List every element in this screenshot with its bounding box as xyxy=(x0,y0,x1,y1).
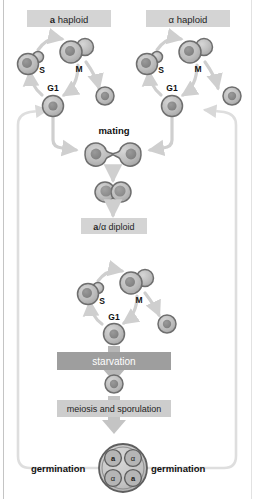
label-m-a: M xyxy=(75,64,82,74)
cell-zygote xyxy=(95,182,131,202)
spore-top-right: α xyxy=(125,450,142,467)
cell-g1-a xyxy=(43,96,64,117)
spore-bottom-right: a xyxy=(125,470,142,487)
banner-diploid-label: a/α diploid xyxy=(93,222,134,232)
banner-alpha-haploid-suffix: haploid xyxy=(174,14,207,25)
label-starvation: starvation xyxy=(92,356,135,367)
life-cycle-svg: a haploid α haploid M S xyxy=(0,0,255,499)
banner-a-haploid-suffix: haploid xyxy=(55,14,88,25)
banner-alpha-haploid-label: α haploid xyxy=(169,14,208,25)
label-m-alpha: M xyxy=(194,64,201,74)
spore-bottom-left: α xyxy=(105,470,122,487)
label-s-alpha: S xyxy=(158,65,164,75)
label-s-a: S xyxy=(39,65,45,75)
label-g1-diploid: G1 xyxy=(108,312,120,322)
label-m-diploid: M xyxy=(135,295,142,305)
yeast-life-cycle-figure: a haploid α haploid M S xyxy=(0,0,255,499)
ascus: a α α a xyxy=(99,444,147,492)
label-s-diploid: S xyxy=(99,296,105,306)
spore-top-right-label: α xyxy=(131,454,136,463)
label-germination-left: germination xyxy=(31,463,86,474)
cell-daughter-alpha xyxy=(223,87,241,105)
banner-diploid-mid: /α xyxy=(98,222,106,232)
cell-diploid-single xyxy=(105,375,123,393)
label-g1-alpha: G1 xyxy=(166,83,178,93)
label-germination-right: germination xyxy=(151,463,206,474)
label-meiosis: meiosis and sporulation xyxy=(67,404,162,414)
spore-bottom-left-label: α xyxy=(111,474,116,483)
cell-daughter-diploid xyxy=(158,315,176,333)
spore-top-left: a xyxy=(105,450,122,467)
label-mating: mating xyxy=(98,125,129,136)
banner-diploid-suffix: diploid xyxy=(106,222,135,232)
cell-daughter-a xyxy=(96,87,114,105)
label-g1-a: G1 xyxy=(47,83,59,93)
cell-g1-diploid xyxy=(104,324,125,345)
banner-a-haploid-label: a haploid xyxy=(50,14,89,25)
cell-g1-alpha xyxy=(162,96,183,117)
